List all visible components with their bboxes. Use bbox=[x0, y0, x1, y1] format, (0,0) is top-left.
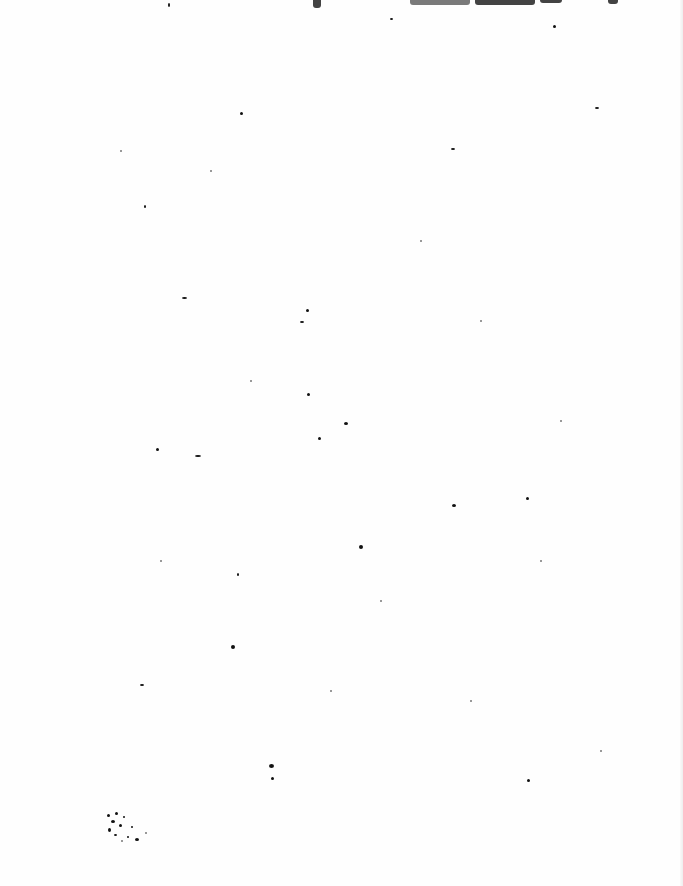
scan-speck bbox=[380, 600, 382, 602]
scan-speck bbox=[300, 321, 304, 323]
scan-speck bbox=[160, 560, 162, 562]
scan-speck bbox=[195, 455, 201, 457]
scan-artifact-top bbox=[608, 0, 618, 4]
scan-speck bbox=[306, 309, 309, 312]
scanned-page bbox=[0, 0, 683, 886]
scan-speck bbox=[182, 297, 187, 299]
scan-speck bbox=[156, 448, 159, 451]
scan-speck bbox=[553, 25, 556, 28]
scan-speck bbox=[237, 573, 239, 576]
scan-speck bbox=[330, 690, 332, 692]
scan-speck bbox=[480, 320, 482, 322]
scan-speck bbox=[600, 750, 602, 752]
scan-speck bbox=[318, 437, 321, 440]
scan-speck bbox=[250, 380, 252, 382]
scan-speck bbox=[526, 497, 529, 500]
scan-speck bbox=[210, 170, 212, 172]
scan-speck bbox=[560, 420, 562, 422]
scan-speck bbox=[307, 393, 310, 396]
scan-speck bbox=[231, 645, 235, 649]
scan-speck bbox=[390, 18, 393, 20]
scan-artifact-top bbox=[410, 0, 470, 5]
scan-speck bbox=[540, 560, 542, 562]
scan-speckle-cluster bbox=[105, 808, 165, 848]
scan-speck bbox=[359, 545, 363, 549]
scan-speck bbox=[595, 107, 599, 109]
scan-speck bbox=[452, 504, 456, 507]
scan-speck bbox=[470, 700, 472, 702]
scan-speck bbox=[140, 684, 144, 686]
scan-artifact-top bbox=[313, 0, 321, 8]
scan-artifact-top bbox=[540, 0, 562, 3]
scan-speck bbox=[271, 777, 274, 780]
scan-speck bbox=[168, 3, 170, 7]
scan-speck bbox=[451, 148, 455, 150]
scan-speck bbox=[420, 240, 422, 242]
scan-artifact-top bbox=[475, 0, 535, 5]
scan-speck bbox=[144, 205, 146, 208]
scan-speck bbox=[344, 422, 348, 425]
scan-speck bbox=[120, 150, 122, 152]
scan-speck bbox=[527, 779, 530, 782]
scan-speck bbox=[269, 764, 274, 768]
scan-speck bbox=[240, 112, 243, 115]
